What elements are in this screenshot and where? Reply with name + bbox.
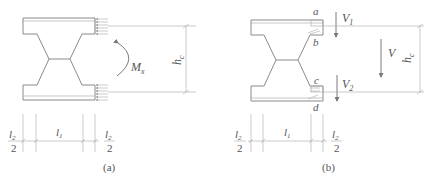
stress-arrows-bottom-a bbox=[96, 85, 108, 100]
point-label-c: c bbox=[314, 74, 319, 86]
dim-left-den-b: 2 bbox=[237, 142, 243, 154]
moment-arc-icon bbox=[117, 43, 129, 76]
dim-left-den-a: 2 bbox=[11, 142, 17, 154]
dim-left-num-b: l2 bbox=[235, 128, 242, 142]
point-label-b: b bbox=[313, 36, 319, 48]
caption-a: (a) bbox=[103, 161, 116, 174]
dim-right-num-a: l2 bbox=[105, 128, 112, 142]
figure: Mx hc l2 2 l1 l2 2 (a) bbox=[0, 0, 434, 180]
panel-a: Mx hc l2 2 l1 l2 2 (a) bbox=[8, 18, 196, 174]
dim-right-num-b: l2 bbox=[332, 128, 339, 142]
caption-b: (b) bbox=[322, 161, 335, 174]
shear-v-label: V bbox=[388, 46, 397, 60]
height-label-a: hc bbox=[170, 55, 186, 65]
dim-right-den-b: 2 bbox=[334, 142, 340, 154]
height-label-b: hc bbox=[400, 53, 416, 63]
dim-mid-b: l1 bbox=[284, 126, 291, 140]
shear-v2-label: V2 bbox=[342, 77, 353, 93]
shear-v1-label: V1 bbox=[342, 11, 353, 27]
point-label-a: a bbox=[313, 5, 319, 17]
joint-outline-b bbox=[251, 20, 323, 101]
dim-right-den-a: 2 bbox=[107, 142, 113, 154]
dim-mid-a: l1 bbox=[56, 126, 63, 140]
point-label-d: d bbox=[313, 101, 319, 113]
joint-outline-a bbox=[23, 18, 95, 100]
panel-b: a b c d V1 V V2 hc l2 bbox=[234, 5, 424, 174]
dim-left-num-a: l2 bbox=[9, 128, 16, 142]
stress-arrows-top-a bbox=[95, 19, 108, 34]
moment-label: Mx bbox=[130, 60, 145, 76]
